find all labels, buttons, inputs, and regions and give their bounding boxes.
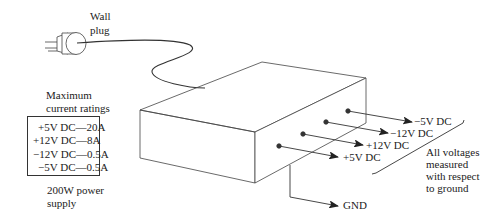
ground-lead [290,165,338,206]
power-supply-box [140,62,366,183]
wall-plug-icon [45,33,86,55]
supply-label-line1: 200W power [47,184,104,196]
output-label-minus5v: −5V DC [414,115,451,127]
wall-plug-label-line2: plug [90,24,110,36]
rating-plus12v: +12V DC—8A [33,134,100,146]
note-line3: with respect [426,170,479,182]
note-line1: All voltages [426,146,479,158]
ratings-title-line2: current ratings [46,102,110,114]
note-line2: measured [426,158,468,170]
ground-label: GND [343,199,367,211]
output-label-plus12v: +12V DC [366,139,409,151]
output-label-plus5v: +5V DC [343,151,380,163]
output-label-minus12v: −12V DC [390,127,433,139]
rating-minus12v: −12V DC—0.5A [33,148,109,160]
supply-label-line2: supply [47,197,76,209]
power-cord [77,40,205,88]
rating-minus5v: −5V DC—0.5A [38,161,108,173]
wall-plug-label-line1: Wall [90,10,111,22]
note-line4: to ground [426,182,468,194]
ratings-title-line1: Maximum [46,89,92,101]
rating-plus5v: +5V DC—20A [38,121,105,133]
